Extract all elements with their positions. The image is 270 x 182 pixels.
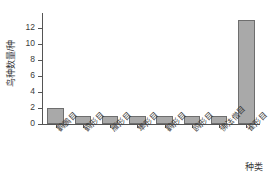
- y-axis-tick-label: 4: [30, 86, 35, 97]
- bar-chart-figure: 鸟种数量/种 024681012 鹳鹏目鹤形目雁形目隼形目鹳形目鸥形目佛法僧目雀…: [0, 0, 270, 182]
- y-axis-line: [42, 13, 43, 125]
- y-axis-tick-label: 0: [30, 118, 35, 129]
- y-axis-tick: 6: [38, 76, 42, 77]
- y-axis-tick-label: 6: [30, 70, 35, 81]
- y-axis-tick-label: 2: [30, 102, 35, 113]
- x-axis-title: 种类: [245, 160, 263, 173]
- y-axis-tick-label: 10: [26, 38, 35, 49]
- y-axis-title-text: 鸟种数量/种: [5, 39, 18, 87]
- y-axis-tick: 0: [38, 124, 42, 125]
- x-axis-category-labels: 鹳鹏目鹤形目雁形目隼形目鹳形目鸥形目佛法僧目雀形目: [42, 126, 260, 166]
- y-axis-tick-label: 8: [30, 54, 35, 65]
- y-axis-tick-label: 12: [26, 22, 35, 33]
- y-axis-tick: 2: [38, 108, 42, 109]
- y-axis-title: 鸟种数量/种: [4, 8, 18, 118]
- y-axis-tick: 4: [38, 92, 42, 93]
- y-axis-tick: 8: [38, 60, 42, 61]
- y-axis-tick: 10: [38, 44, 42, 45]
- y-axis-tick: 12: [38, 28, 42, 29]
